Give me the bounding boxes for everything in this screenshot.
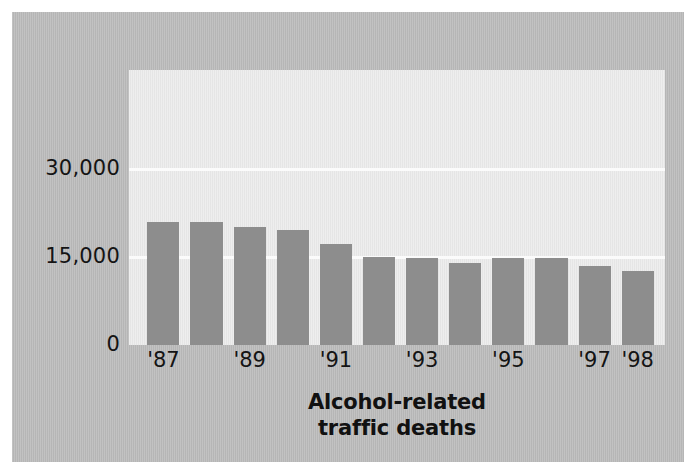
bar-89: [234, 227, 266, 345]
bar-95: [492, 258, 524, 345]
chart-figure: 015,00030,000 '87'89'91'93'95'97'98 Alco…: [0, 0, 696, 474]
x-tick-label-91: '91: [306, 350, 366, 371]
x-tick-label-89: '89: [220, 350, 280, 371]
gridline-30000: [129, 168, 665, 171]
x-axis: '87'89'91'93'95'97'98: [129, 350, 665, 384]
bar-97: [579, 266, 611, 345]
plot-area: [129, 70, 665, 345]
y-tick-label-0: 0: [106, 334, 120, 355]
y-tick-label-30000: 30,000: [45, 158, 120, 179]
bar-93: [406, 258, 438, 345]
x-tick-label-87: '87: [133, 350, 193, 371]
caption-line-1: Alcohol-related: [129, 390, 665, 416]
y-axis: 015,00030,000: [12, 12, 120, 474]
bar-92: [363, 257, 395, 345]
bar-98: [622, 271, 654, 345]
bar-87: [147, 222, 179, 345]
bar-96: [535, 258, 567, 345]
bar-90: [277, 230, 309, 345]
x-tick-label-98: '98: [608, 350, 668, 371]
x-tick-label-93: '93: [392, 350, 452, 371]
bar-94: [449, 263, 481, 345]
chart-caption: Alcohol-related traffic deaths: [129, 390, 665, 441]
caption-line-2: traffic deaths: [129, 416, 665, 442]
chart-page-panel: 015,00030,000 '87'89'91'93'95'97'98 Alco…: [12, 12, 684, 462]
bar-91: [320, 244, 352, 345]
x-tick-label-95: '95: [478, 350, 538, 371]
bar-88: [190, 222, 222, 345]
y-tick-label-15000: 15,000: [45, 246, 120, 267]
